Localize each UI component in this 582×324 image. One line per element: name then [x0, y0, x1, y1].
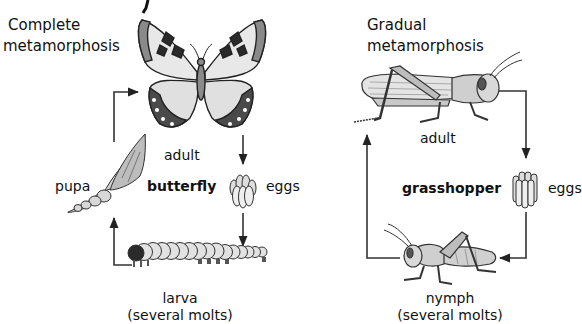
- grasshopper-adult-illustration: [354, 52, 522, 122]
- arrow-eggs-to-nymph: [500, 212, 526, 258]
- butterfly-stage-adult: adult: [164, 147, 200, 164]
- grasshopper-nymph-note: (several molts): [390, 307, 510, 324]
- butterfly-illustration: [138, 20, 265, 127]
- butterfly-stage-pupa: pupa: [55, 178, 90, 195]
- grasshopper-center-label: grasshopper: [402, 180, 501, 197]
- pupa-illustration: [68, 134, 146, 213]
- grasshopper-stage-adult: adult: [420, 130, 456, 147]
- butterfly-stage-larva: larva: [130, 290, 230, 307]
- nymph-illustration: [384, 224, 496, 284]
- butterfly-eggs-illustration: [230, 175, 256, 208]
- butterfly-stage-eggs: eggs: [266, 178, 300, 195]
- right-title-line2: metamorphosis: [367, 36, 484, 56]
- right-title-line1: Gradual: [367, 15, 426, 35]
- arrow-adult-to-eggs-gh: [498, 91, 526, 158]
- grasshopper-stage-eggs: eggs: [548, 180, 582, 197]
- arrow-pupa-to-adult: [114, 92, 138, 142]
- partial-title-glyph: [143, 0, 148, 13]
- grasshopper-eggs-illustration: [513, 172, 537, 208]
- butterfly-larva-note: (several molts): [120, 307, 240, 324]
- grasshopper-stage-nymph: nymph: [400, 290, 500, 307]
- left-title-line2: metamorphosis: [3, 36, 120, 56]
- left-title-line1: Complete: [8, 15, 80, 35]
- arrow-nymph-to-adult: [367, 135, 400, 258]
- larva-illustration: [128, 243, 267, 268]
- butterfly-center-label: butterfly: [147, 178, 216, 195]
